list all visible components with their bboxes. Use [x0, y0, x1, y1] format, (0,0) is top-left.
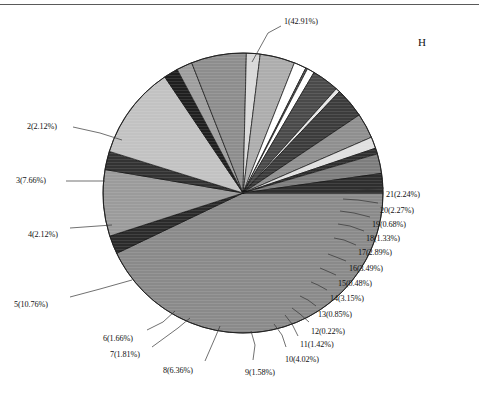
- slice-label-9: 9(1.58%): [245, 368, 275, 377]
- slice-label-6: 6(1.66%): [103, 334, 133, 343]
- slice-label-21: 21(2.24%): [386, 190, 420, 199]
- leader-line-8: [205, 326, 220, 361]
- leader-line-9: [251, 331, 255, 360]
- leader-line-4: [70, 225, 112, 228]
- slice-label-16: 16(3.49%): [349, 264, 383, 273]
- slice-label-20: 20(2.27%): [380, 206, 414, 215]
- slice-label-10: 10(4.02%): [285, 355, 319, 364]
- slice-label-12: 12(0.22%): [311, 327, 345, 336]
- slice-label-13: 13(0.85%): [318, 310, 352, 319]
- slice-label-17: 17(2.89%): [358, 248, 392, 257]
- pie-chart-figure: H 1(42.91%)2(2.12%)3(7.66%)4(2.12%)5(10.…: [0, 0, 479, 400]
- pie-slices: [103, 53, 383, 333]
- slice-label-1: 1(42.91%): [284, 17, 318, 26]
- slice-label-4: 4(2.12%): [28, 230, 58, 239]
- leader-line-5: [70, 280, 132, 297]
- slice-label-8: 8(6.36%): [163, 366, 193, 375]
- slice-label-5: 5(10.76%): [14, 300, 48, 309]
- slice-label-14: 14(3.15%): [330, 294, 364, 303]
- slice-label-15: 15(0.48%): [338, 279, 372, 288]
- leader-line-6: [147, 311, 175, 330]
- slice-label-11: 11(1.42%): [300, 340, 334, 349]
- pie-chart-canvas: [0, 0, 479, 400]
- slice-label-18: 18(1.33%): [366, 234, 400, 243]
- slice-label-7: 7(1.81%): [110, 350, 140, 359]
- slice-label-2: 2(2.12%): [27, 122, 57, 131]
- panel-letter: H: [418, 36, 426, 48]
- leader-line-7: [152, 318, 190, 347]
- slice-label-3: 3(7.66%): [16, 176, 46, 185]
- slice-label-19: 19(0.68%): [372, 220, 406, 229]
